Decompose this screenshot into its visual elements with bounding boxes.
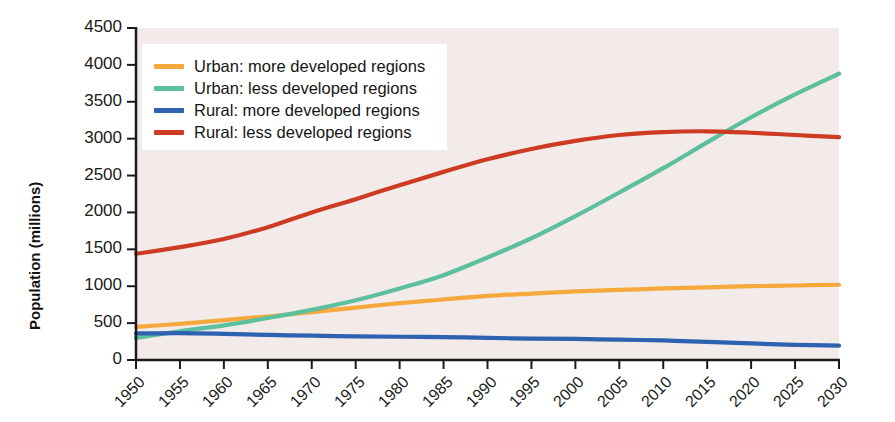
chart-legend: Urban: more developed regionsUrban: less… (142, 44, 447, 150)
legend-label: Rural: more developed regions (194, 101, 420, 120)
y-tick-label: 1000 (84, 275, 122, 295)
legend-color-swatch (154, 108, 184, 113)
y-tick-label: 2000 (84, 201, 122, 221)
y-axis-title: Population (millions) (26, 182, 43, 330)
y-tick-label: 1500 (84, 238, 122, 258)
line-chart-canvas (0, 0, 895, 422)
y-tick-label: 2500 (84, 165, 122, 185)
legend-label: Urban: less developed regions (194, 79, 417, 98)
y-tick-label: 3000 (84, 128, 122, 148)
legend-item[interactable]: Urban: less developed regions (154, 76, 417, 100)
legend-color-swatch (154, 64, 184, 69)
legend-label: Rural: less developed regions (194, 123, 411, 142)
legend-label: Urban: more developed regions (194, 57, 425, 76)
y-tick-label: 0 (113, 349, 122, 369)
y-tick-label: 500 (94, 312, 122, 332)
y-tick-label: 4000 (84, 54, 122, 74)
y-tick-label: 4500 (84, 17, 122, 37)
chart-figure: Population (millions) 050010001500200025… (0, 0, 895, 422)
legend-item[interactable]: Urban: more developed regions (154, 54, 425, 78)
legend-color-swatch (154, 130, 184, 135)
legend-color-swatch (154, 86, 184, 91)
legend-item[interactable]: Rural: less developed regions (154, 120, 411, 144)
legend-item[interactable]: Rural: more developed regions (154, 98, 420, 122)
y-tick-label: 3500 (84, 91, 122, 111)
